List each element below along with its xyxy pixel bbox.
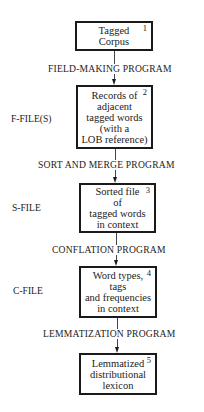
node-number: 5	[147, 356, 151, 365]
node-text-line: of	[113, 197, 122, 208]
node-word-types: 4 Word types, tags and frequencies in co…	[79, 266, 157, 318]
node-sorted-file: 3 Sorted file of tagged words in context	[79, 183, 156, 233]
node-tagged-corpus: 1 Tagged Corpus	[75, 21, 153, 51]
node-text-line: Tagged	[99, 25, 130, 36]
node-text-line: in context	[97, 219, 139, 230]
node-text-line: in context	[97, 303, 139, 314]
node-text-line: adjacent	[97, 101, 132, 112]
node-text-line: tagged words	[86, 112, 142, 123]
program-label-sort-merge: SORT AND MERGE PROGRAM	[37, 160, 176, 170]
node-text-line: Corpus	[99, 36, 129, 47]
file-label-c-file: C-FILE	[13, 286, 43, 296]
node-text-line: tagged words	[89, 208, 145, 219]
program-label-field-making: FIELD-MAKING PROGRAM	[47, 64, 173, 74]
node-text-line: Lemmatized	[92, 358, 144, 369]
file-label-f-file: F-FILE(S)	[11, 114, 52, 124]
node-lemmatized-lexicon: 5 Lemmatized distributional lexicon	[79, 353, 157, 395]
node-text-line: Sorted file	[95, 186, 139, 197]
node-text-line: Records of	[92, 90, 138, 101]
file-label-s-file: S-FILE	[12, 203, 41, 213]
node-text-line: LOB reference)	[81, 134, 147, 145]
node-records: 2 Records of adjacent tagged words (with…	[76, 85, 153, 149]
node-text-line: distributional	[90, 369, 146, 380]
node-text-line: Word types,	[93, 270, 143, 281]
node-number: 4	[147, 269, 151, 278]
program-label-lemmatization: LEMMATIZATION PROGRAM	[42, 329, 176, 339]
node-number: 2	[143, 88, 147, 97]
node-text-line: and frequencies	[85, 292, 151, 303]
node-text-line: (with a	[100, 123, 129, 134]
node-text-line: lexicon	[103, 380, 134, 391]
node-number: 3	[146, 186, 150, 195]
program-label-conflation: CONFLATION PROGRAM	[51, 245, 167, 255]
node-text-line: tags	[110, 281, 127, 292]
node-number: 1	[143, 24, 147, 33]
